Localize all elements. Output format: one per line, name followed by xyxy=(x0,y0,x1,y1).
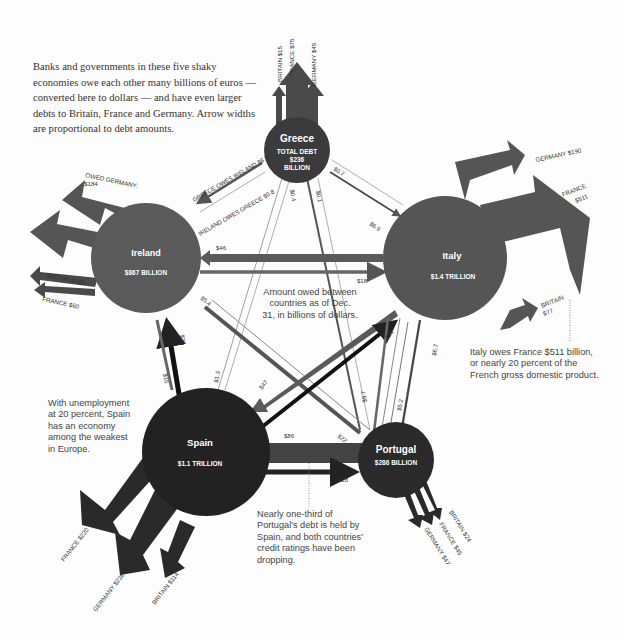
greece-line2: $236 xyxy=(290,156,305,164)
flow-ireland-spain-b: $16 xyxy=(162,373,170,385)
flow-italy-spain: $47 xyxy=(258,379,269,391)
label-ireland-france: FRANCE $60 xyxy=(42,295,81,310)
greece-line1: TOTAL DEBT xyxy=(277,148,317,155)
flow-ireland-portugal: $22 xyxy=(336,433,348,444)
label-italy-britain-1: BRITAIN xyxy=(540,293,565,308)
label-ireland-germany-2: $184 xyxy=(84,180,98,187)
spain-note: With unemployment at 20 percent, Spain h… xyxy=(48,398,134,455)
italy-name: Italy xyxy=(442,250,462,261)
label-greece-britain: BRITAIN $15 xyxy=(276,45,283,82)
spain-total: $1.1 TRILLION xyxy=(178,460,223,468)
center-note: Amount owed between countries as of Dec.… xyxy=(262,287,358,321)
portugal-note: Nearly one-third of Portugal's debt is h… xyxy=(257,509,369,566)
greece-name: Greece xyxy=(280,133,314,144)
flow-portugal-italy-a: $5.2 xyxy=(396,398,404,411)
node-ireland xyxy=(91,203,201,313)
portugal-name: Portugal xyxy=(376,444,417,455)
label-spain-france: FRANCE $220 xyxy=(59,526,90,563)
flow-greece-italy-b: $6.9 xyxy=(368,221,382,233)
italy-total: $1.4 TRILLION xyxy=(431,273,476,281)
flow-portugal-ireland: $5.4 xyxy=(199,295,212,307)
label-ireland-britain: BRITAIN $188 xyxy=(46,271,87,286)
flow-spain-portugal: $28 xyxy=(338,477,349,483)
portugal-total: $286 BILLION xyxy=(375,459,418,467)
flow-greece-portugal: $0.1 xyxy=(315,190,323,203)
flow-greece-spain: $0.4 xyxy=(289,189,297,202)
flow-portugal-spain: $86 xyxy=(284,433,295,439)
label-greece-germany: GERMANY $45 xyxy=(310,42,317,86)
flow-italy-ireland: $46 xyxy=(216,245,227,251)
debt-flow-diagram: Greece TOTAL DEBT $236 BILLION Ireland $… xyxy=(0,0,624,640)
flow-ireland-italy: $18 xyxy=(357,278,368,284)
label-italy-france-2: $511 xyxy=(574,192,589,204)
italy-note: Italy owes France $511 billion, or nearl… xyxy=(470,347,600,381)
node-spain xyxy=(142,388,270,516)
flow-ireland-spain-a: $30 xyxy=(179,334,187,346)
label-spain-germany: GERMANY $238 xyxy=(91,571,126,613)
ireland-name: Ireland xyxy=(131,248,161,258)
flow-italy-portugal: $9.7 xyxy=(360,390,368,403)
flow-portugal-italy-b: $6.7 xyxy=(431,343,439,356)
intro-text: Banks and governments in these five shak… xyxy=(33,59,258,137)
label-italy-germany: GERMANY $190 xyxy=(535,146,583,163)
spain-name: Spain xyxy=(187,437,213,448)
flow-spain-greece: $1.3 xyxy=(213,370,221,383)
label-greece-france: FRANCE $75 xyxy=(288,38,295,76)
ireland-total: $867 BILLION xyxy=(125,269,168,277)
greece-line3: BILLION xyxy=(284,164,310,171)
